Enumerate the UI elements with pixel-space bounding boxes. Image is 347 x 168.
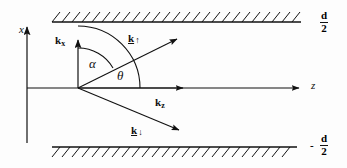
top-wall (52, 12, 301, 22)
top-wall-value: d 2 (320, 10, 328, 34)
diagram-canvas (0, 0, 347, 168)
k-z-vector-label: kz (155, 97, 165, 110)
down-arrow-icon: ↓ (137, 127, 143, 137)
bottom-wall-denominator: 2 (320, 145, 328, 158)
alpha-angle-label: α (89, 57, 96, 70)
top-wall-numerator: d (320, 10, 328, 22)
k-up-vector-label: k↑ (128, 33, 140, 45)
top-wall-hatching (52, 12, 300, 22)
theta-angle-label: θ (117, 69, 123, 82)
k-x-vector-label: kx (55, 35, 65, 48)
k-x-subscript: x (61, 39, 65, 48)
up-arrow-icon: ↑ (134, 35, 140, 45)
waveguide-wavevector-diagram: x z kx kz k↑ k↓ α θ d 2 - d 2 (0, 0, 347, 168)
bottom-wall (52, 147, 297, 157)
k-down-vector-label: k↓ (131, 125, 143, 137)
top-wall-denominator: 2 (320, 22, 328, 35)
z-axis-label: z (311, 80, 315, 91)
bottom-wall-hatching (52, 147, 290, 157)
bottom-wall-value: d 2 (320, 133, 328, 157)
bottom-wall-sign: - (310, 139, 314, 151)
x-axis-label: x (19, 24, 24, 35)
k-z-subscript: z (161, 101, 165, 110)
bottom-wall-numerator: d (320, 133, 328, 145)
